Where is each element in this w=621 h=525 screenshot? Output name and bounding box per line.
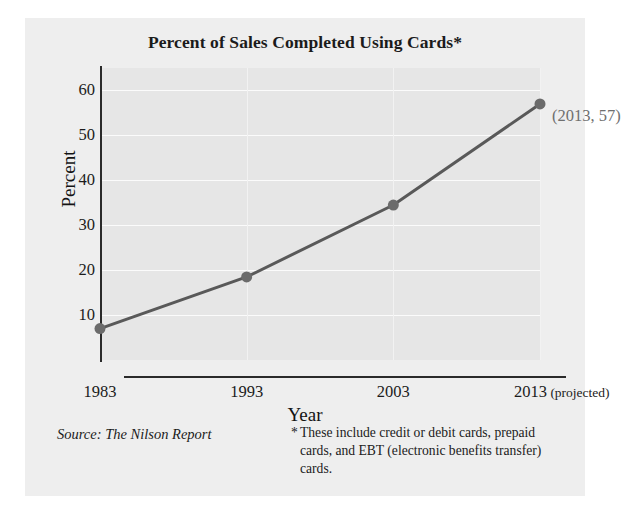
data-point-marker xyxy=(535,98,546,109)
figure-panel: Percent of Sales Completed Using Cards* … xyxy=(25,18,585,496)
series-line xyxy=(100,104,540,329)
data-point-marker xyxy=(241,271,252,282)
source-note: Source: The Nilson Report xyxy=(57,426,212,443)
data-point-annotation: (2013, 57) xyxy=(552,106,621,126)
footnote-text: These include credit or debit cards, pre… xyxy=(291,424,561,478)
data-point-marker xyxy=(388,200,399,211)
footnote-marker: * xyxy=(291,424,298,442)
footnote: * These include credit or debit cards, p… xyxy=(291,424,561,478)
series-markers xyxy=(95,98,546,334)
data-point-marker xyxy=(95,323,106,334)
